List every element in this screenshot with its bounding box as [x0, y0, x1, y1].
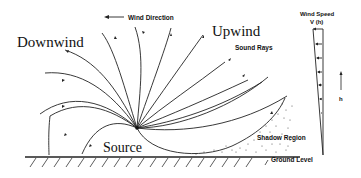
downwind-label: Downwind — [17, 34, 84, 50]
wind-direction-arrow — [104, 15, 124, 19]
wind-speed-profile — [313, 29, 323, 155]
ground — [25, 157, 300, 167]
height-axis-label: h — [339, 96, 343, 102]
shadow-region-label: Shadow Region — [257, 134, 306, 142]
upwind-label: Upwind — [212, 23, 261, 39]
source-label: Source — [103, 140, 142, 155]
sound-rays-label: Sound Rays — [235, 44, 273, 52]
wind-direction-label: Wind Direction — [128, 14, 174, 21]
wind-speed-vector-arrowheads — [313, 28, 322, 101]
ground-level-label: Ground Level — [271, 156, 313, 163]
height-axis-arrow — [340, 71, 343, 90]
sound-propagation-diagram: Wind Direction Downwind Upwind Sound Ray… — [0, 0, 361, 178]
wind-speed-label: Wind Speed — [300, 11, 335, 17]
wind-speed-function-label: V (h) — [310, 19, 323, 25]
source-point — [135, 126, 139, 130]
